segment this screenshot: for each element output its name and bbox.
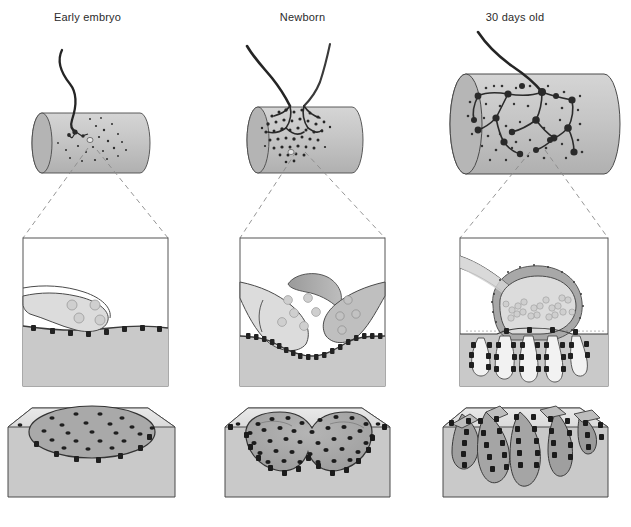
surface-block-early-embryo bbox=[8, 406, 175, 497]
detail-panel-early-embryo bbox=[23, 238, 168, 386]
fiber-cylinder-30-days-old bbox=[450, 32, 620, 174]
surface-block-newborn bbox=[225, 408, 390, 497]
fiber-cylinder-newborn bbox=[247, 44, 363, 173]
figure-root: Early embryo Newborn 30 days old bbox=[0, 0, 631, 527]
detail-panel-newborn bbox=[240, 238, 385, 386]
diagram-canvas bbox=[0, 0, 631, 527]
detail-panel-30-days-old bbox=[460, 238, 608, 386]
surface-block-30-days-old bbox=[443, 406, 608, 497]
fiber-cylinder-early-embryo bbox=[32, 50, 150, 173]
